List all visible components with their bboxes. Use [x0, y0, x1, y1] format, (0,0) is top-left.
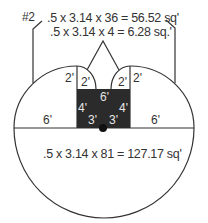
dim-rect-width: 6' [100, 90, 109, 104]
dim-rect-left-half: 3' [88, 113, 97, 127]
area-diagram: #2 .5 x 3.14 x 36 = 56.52 sq' .5 x 3.14 … [0, 0, 208, 223]
dim-rect-right-height: 4' [119, 101, 128, 115]
dim-rect-left-height: 4' [78, 101, 87, 115]
bottom-semicircle [14, 128, 194, 218]
center-dot [99, 124, 107, 132]
formula-top-outer: .5 x 3.14 x 36 = 56.52 sq' [47, 11, 179, 25]
dim-left-radius: 6' [43, 113, 52, 127]
left-bracket [33, 21, 42, 83]
dim-right-radius: 6' [151, 113, 160, 127]
formula-top-inner: .5 x 3.14 x 4 = 6.28 sq.' [50, 25, 172, 39]
inner-leader-lines [87, 41, 119, 70]
dim-left-outer-small: 2' [65, 71, 74, 85]
formula-bottom: .5 x 3.14 x 81 = 127.17 sq' [43, 147, 182, 161]
dim-rect-right-half: 3' [109, 113, 118, 127]
dim-left-inner-small: 2' [81, 75, 90, 89]
dim-right-outer-small: 2' [133, 71, 142, 85]
figure-label: #2 [22, 10, 35, 24]
dim-right-inner-small: 2' [118, 75, 127, 89]
